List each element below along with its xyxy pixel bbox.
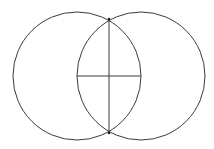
- top-intersection-point: [108, 18, 111, 21]
- vesica-piscis-diagram: [0, 0, 214, 149]
- diagram-canvas: [0, 0, 214, 149]
- bottom-intersection-point: [108, 132, 111, 135]
